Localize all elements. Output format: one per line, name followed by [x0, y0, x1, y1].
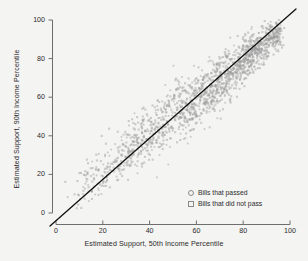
legend-item-not-passed: Bills that did not pass [188, 199, 262, 210]
x-axis-label: Estimated Support, 50th Income Percentil… [0, 240, 308, 248]
legend-square-marker-icon [188, 201, 194, 207]
legend-label-not-passed: Bills that did not pass [198, 199, 262, 210]
y-tick-label: 80 [24, 55, 45, 63]
legend-circle-marker-icon [188, 190, 194, 196]
x-tick-label: 0 [54, 227, 58, 235]
x-tick-label: 60 [192, 227, 200, 235]
y-tick-label: 100 [24, 16, 45, 24]
y-tick-label: 0 [24, 209, 45, 217]
y-axis-label-wrapper: Estimated Support, 90th Income Percentil… [5, 32, 23, 207]
x-tick-label: 80 [239, 227, 247, 235]
y-axis-label: Estimated Support, 90th Income Percentil… [13, 50, 21, 189]
scatter-plot-figure: Estimated Support, 90th Income Percentil… [0, 0, 308, 261]
x-axis-ticks [56, 221, 290, 225]
plot-canvas [0, 0, 308, 261]
y-tick-label: 20 [24, 170, 45, 178]
x-tick-label: 20 [99, 227, 107, 235]
legend-label-passed: Bills that passed [198, 188, 248, 199]
y-axis-ticks [49, 20, 53, 213]
y-tick-label: 40 [24, 132, 45, 140]
chart-legend: Bills that passed Bills that did not pas… [188, 188, 262, 209]
x-tick-label: 40 [146, 227, 154, 235]
x-tick-label: 100 [284, 227, 296, 235]
y-tick-label: 60 [24, 93, 45, 101]
legend-item-passed: Bills that passed [188, 188, 262, 199]
